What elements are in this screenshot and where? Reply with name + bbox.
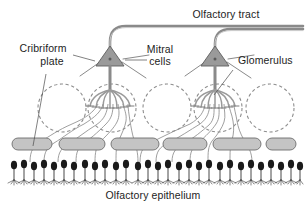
receptor-neuron: [142, 160, 154, 185]
receptor-neuron: [38, 160, 50, 185]
cribriform-plate-segment-4: [163, 138, 207, 150]
axon-r-5: [208, 104, 225, 162]
label-mitral-cells-line1: Mitral: [147, 43, 173, 55]
receptor-neuron: [235, 162, 247, 185]
axon-l-1: [30, 104, 98, 162]
leader-mitral-cells-left: [73, 55, 95, 61]
axon-r-6: [229, 104, 234, 162]
receptor-neuron: [255, 162, 267, 185]
mitral-left-nucleus: [109, 58, 112, 61]
receptor-neuron: [48, 162, 60, 185]
receptor-neuron: [99, 160, 111, 185]
leader-glomerulus: [214, 70, 233, 95]
receptor-neuron: [285, 160, 297, 185]
receptor-neuron: [120, 160, 132, 185]
axon-l-2: [44, 104, 103, 162]
receptor-neuron: [162, 160, 174, 185]
olfactory-pathway-figure: Olfactory tract Cribriform plate Mitral …: [0, 0, 306, 207]
label-glomerulus: Glomerulus: [238, 54, 293, 66]
receptor-neuron: [110, 162, 122, 185]
receptor-neuron: [58, 160, 70, 185]
receptor-neuron: [295, 162, 303, 185]
diagram-canvas: Olfactory tract Cribriform plate Mitral …: [0, 0, 306, 207]
mitral-left-glomerular-tuft: [86, 90, 134, 108]
axon-r-1: [140, 104, 205, 162]
label-olfactory-epithelium: Olfactory epithelium: [106, 189, 201, 201]
label-cribriform-plate-line1: Cribriform: [19, 42, 66, 54]
glomeruli-group: [38, 84, 294, 132]
glomerulus-3: [143, 84, 191, 132]
tract-axon-left-highlight: [110, 28, 303, 52]
glomerulus-1: [38, 84, 86, 132]
label-olfactory-tract: Olfactory tract: [193, 8, 260, 20]
cribriform-plate-segment-1: [12, 138, 52, 150]
glomerulus-5: [246, 84, 294, 132]
cribriform-plate-segment-6: [266, 138, 296, 150]
mitral-left-soma: [96, 46, 124, 66]
axon-l-3: [58, 104, 108, 162]
receptor-neuron: [245, 160, 257, 185]
receptor-neuron: [68, 162, 80, 185]
receptor-neuron: [79, 160, 91, 185]
cribriform-plate-segment-3: [111, 138, 159, 150]
receptor-neuron: [89, 162, 101, 185]
axon-l-7: [128, 104, 138, 162]
receptor-neuron: [132, 162, 144, 185]
diagram-labels: Olfactory tract Cribriform plate Mitral …: [19, 8, 292, 201]
leader-cribriform-plate: [33, 74, 46, 146]
receptor-neuron: [275, 162, 287, 185]
axon-r-7: [234, 104, 252, 162]
cribriform-plate: [12, 138, 296, 150]
cribriform-plate-segment-2: [59, 138, 105, 150]
olfactory-nerve-axon-bundles: [30, 104, 252, 162]
receptor-neuron: [152, 162, 164, 185]
receptor-neuron: [224, 160, 236, 185]
receptor-neuron: [173, 162, 185, 185]
label-cribriform-plate-line2: plate: [40, 55, 63, 67]
olfactory-receptor-neurons: [8, 160, 303, 185]
mitral-left-dendrite-basal-r: [122, 62, 146, 78]
tract-axon-right-highlight: [215, 31, 303, 52]
label-mitral-cells-line2: cells: [149, 55, 171, 67]
olfactory-tract-axons: [110, 26, 303, 54]
mitral-right-soma: [201, 46, 229, 66]
mitral-cell-left: [80, 46, 149, 108]
receptor-neuron: [203, 160, 215, 185]
axon-r-3: [172, 104, 214, 162]
receptor-neuron: [265, 160, 277, 185]
cribriform-plate-segment-5: [213, 138, 261, 150]
receptor-neuron: [8, 161, 20, 185]
receptor-neuron: [28, 162, 40, 185]
mitral-right-glomerular-tuft: [191, 90, 239, 108]
mitral-right-nucleus: [214, 58, 217, 61]
receptor-neuron: [18, 160, 30, 185]
receptor-neuron: [193, 162, 205, 185]
axon-l-6: [116, 104, 126, 162]
axon-l-4: [76, 104, 113, 162]
mitral-left-dendrite-lateral: [123, 55, 149, 59]
tract-axon-right: [215, 29, 303, 54]
receptor-neuron: [214, 162, 226, 185]
receptor-neuron: [183, 160, 195, 185]
